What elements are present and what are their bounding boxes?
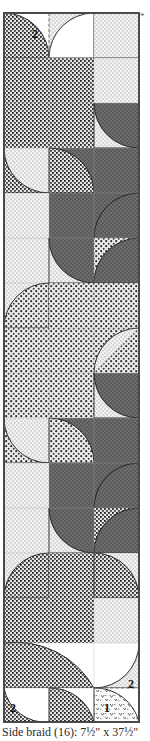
label-piece-bottom-left-2: 2 — [10, 702, 16, 714]
label-piece-bottom-right-2: 2 — [128, 678, 134, 690]
figure-caption: Side braid (16): 7½" x 37½" — [0, 725, 150, 739]
corner-mark-icon: * — [140, 12, 145, 21]
quilt-diagram — [0, 0, 150, 741]
label-piece-top-2: 2 — [32, 28, 38, 40]
label-piece-bottom-center-1: 1 — [104, 702, 110, 714]
quilt-body — [4, 13, 139, 722]
quilt-figure: 2 2 1 2 * Side braid (16): 7½" x 37½" — [0, 0, 150, 741]
